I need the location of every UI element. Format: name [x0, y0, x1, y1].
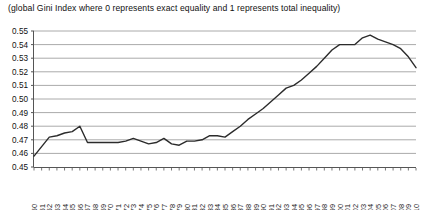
y-axis-tick-label: 0.55 — [12, 27, 28, 36]
y-axis-tick-label: 0.49 — [12, 109, 28, 118]
chart-subtitle: (global Gini Index where 0 represents ex… — [8, 3, 340, 14]
gini-index-data-line — [34, 35, 416, 156]
y-axis-tick-label: 0.51 — [12, 81, 28, 90]
line-chart-svg: 0.550.540.530.520.510.500.490.480.470.46… — [0, 24, 430, 174]
plot-area: 0.550.540.530.520.510.500.490.480.470.46… — [0, 24, 430, 174]
gridlines — [34, 31, 416, 153]
gini-index-chart-figure: (global Gini Index where 0 represents ex… — [0, 0, 430, 210]
y-axis-tick-label: 0.48 — [12, 122, 28, 131]
x-axis-tick-label: 2010 — [412, 204, 421, 210]
y-axis-tick-labels: 0.550.540.530.520.510.500.490.480.470.46… — [12, 27, 28, 172]
x-axis-tick-labels: 1960196119621963196419651966196719681969… — [0, 168, 430, 210]
y-axis-tick-label: 0.54 — [12, 41, 28, 50]
y-axis-tick-label: 0.53 — [12, 54, 28, 63]
y-axis-tick-label: 0.50 — [12, 95, 28, 104]
y-axis-tick-label: 0.46 — [12, 149, 28, 158]
y-axis-tick-label: 0.52 — [12, 68, 28, 77]
x-axis-labels-svg: 1960196119621963196419651966196719681969… — [0, 168, 430, 210]
y-axis-tick-label: 0.47 — [12, 136, 28, 145]
